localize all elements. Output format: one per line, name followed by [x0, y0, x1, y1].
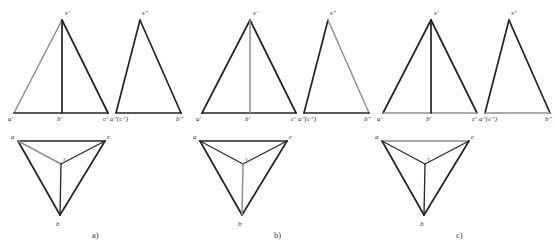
group-a: s' a' b' c' s" a"(c") b" a c b s a)	[8, 9, 183, 240]
label-c: c	[471, 133, 475, 141]
label-a-prime: a'	[377, 115, 383, 123]
group-a-top-view: a c b s	[11, 133, 111, 228]
edge-s1-c1	[250, 20, 296, 113]
label-a: a	[375, 133, 379, 141]
label-apex-s-prime: s'	[434, 9, 439, 17]
caption-c: c)	[456, 230, 463, 240]
label-apex-s-dprime: s"	[330, 9, 336, 17]
label-c: c	[289, 133, 293, 141]
edge-a1-s1	[14, 20, 62, 113]
caption-a: a)	[92, 230, 99, 240]
label-a: a	[193, 133, 197, 141]
edge-b-s	[424, 164, 425, 215]
label-b-prime: b'	[245, 115, 251, 123]
label-apex-s-prime: s'	[65, 9, 70, 17]
label-a-dprime-c-dprime: a"(c")	[479, 115, 498, 123]
label-b-dprime: b"	[176, 115, 183, 123]
edge-b-s	[242, 164, 243, 215]
label-b: b	[56, 220, 60, 228]
label-b-prime: b'	[426, 115, 432, 123]
edge-a2-s2	[116, 20, 140, 113]
label-a-prime: a'	[196, 115, 202, 123]
edge-s1-c1	[431, 20, 477, 113]
label-c-prime: c'	[103, 115, 108, 123]
label-c-prime: c'	[472, 115, 477, 123]
group-b-front-view: s' a' b' c'	[196, 9, 296, 123]
group-a-front-view: s' a' b' c'	[8, 9, 108, 123]
label-b-dprime: b"	[545, 115, 552, 123]
edge-a2-s2	[485, 20, 509, 113]
figure-root: s' a' b' c' s" a"(c") b" a c b s a)	[0, 0, 555, 248]
edge-a2-s2	[304, 20, 328, 113]
label-a: a	[11, 133, 15, 141]
group-b-top-view: a c b s	[193, 133, 293, 228]
edge-s2-b2	[328, 20, 369, 113]
caption-b: b)	[274, 230, 281, 240]
edge-a1-s1	[383, 20, 431, 113]
edge-s2-b2	[509, 20, 550, 113]
label-apex-s-prime: s'	[253, 9, 258, 17]
group-b: s' a' b' c' s" a"(c") b" a c b s b)	[193, 9, 371, 240]
edge-b-s	[60, 164, 61, 215]
label-b: b	[420, 220, 424, 228]
group-c-top-view: a c b s	[375, 133, 475, 228]
group-a-side-view: s" a"(c") b"	[110, 9, 183, 123]
group-c: s' a' b' c' s" a"(c") b" a c b s c)	[375, 9, 552, 240]
label-s: s	[63, 155, 66, 163]
label-apex-s-dprime: s"	[511, 9, 517, 17]
group-c-front-view: s' a' b' c'	[377, 9, 477, 123]
label-s: s	[427, 155, 430, 163]
edge-a1-s1	[202, 20, 250, 113]
group-c-side-view: s" a"(c") b"	[479, 9, 552, 123]
edge-s2-b2	[140, 20, 181, 113]
edge-s1-c1	[62, 20, 108, 113]
label-c-prime: c'	[291, 115, 296, 123]
label-a-dprime-c-dprime: a"(c")	[110, 115, 129, 123]
label-apex-s-dprime: s"	[142, 9, 148, 17]
label-c: c	[107, 133, 111, 141]
projection-diagram: s' a' b' c' s" a"(c") b" a c b s a)	[0, 0, 555, 248]
label-b-prime: b'	[57, 115, 63, 123]
group-b-side-view: s" a"(c") b"	[298, 9, 371, 123]
label-b-dprime: b"	[364, 115, 371, 123]
label-b: b	[238, 220, 242, 228]
label-s: s	[245, 155, 248, 163]
label-a-dprime-c-dprime: a"(c")	[298, 115, 317, 123]
label-a-prime: a'	[8, 115, 14, 123]
